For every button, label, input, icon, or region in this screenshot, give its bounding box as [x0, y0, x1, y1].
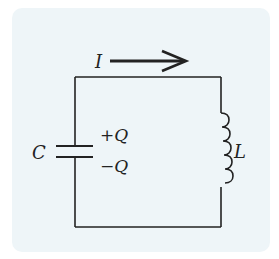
lc-circuit-diagram: I C +Q −Q L: [0, 0, 279, 259]
inductor-symbol: [221, 113, 233, 183]
capacitor-label: C: [32, 142, 46, 163]
plus-charge-label: +Q: [100, 125, 128, 145]
capacitor-symbol: [56, 146, 93, 157]
inductor-label: L: [233, 141, 246, 162]
circuit-wires: [75, 77, 221, 227]
minus-charge-label: −Q: [100, 156, 128, 176]
current-label: I: [94, 51, 103, 72]
current-arrow-icon: [110, 51, 186, 71]
